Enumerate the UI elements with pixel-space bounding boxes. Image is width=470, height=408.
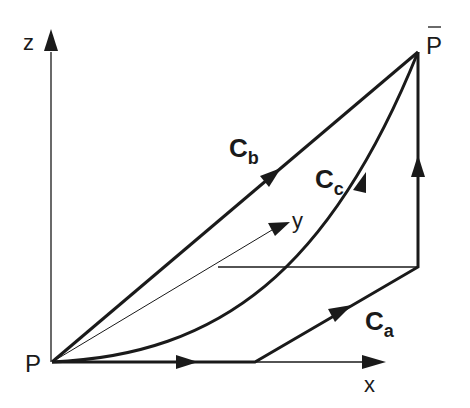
end-point-label-group: P xyxy=(426,27,442,59)
y-axis-label: y xyxy=(292,208,303,233)
y-axis-arrow-icon xyxy=(268,222,290,236)
z-axis: z xyxy=(23,29,58,362)
curve-c-b: Cb xyxy=(52,52,418,362)
x-axis-arrow-icon xyxy=(362,355,386,369)
z-axis-label: z xyxy=(23,30,34,55)
curve-a-arrow-1-icon xyxy=(176,355,198,369)
path-integration-diagram: z x y Ca Cb Cc P P xyxy=(0,0,470,408)
curve-c-label: Cc xyxy=(315,164,344,199)
curve-a-label: Ca xyxy=(365,306,395,341)
curve-c-a: Ca xyxy=(52,52,425,369)
curve-a-arrow-2-icon xyxy=(328,305,352,322)
z-axis-arrow-icon xyxy=(44,29,58,51)
end-point-label: P xyxy=(426,32,442,59)
curve-b-label: Cb xyxy=(229,133,259,168)
start-point-label: P xyxy=(25,350,41,377)
x-axis-label: x xyxy=(364,372,375,397)
curve-a-arrow-3-icon xyxy=(411,155,425,177)
curve-c-arrow-icon xyxy=(353,172,366,193)
